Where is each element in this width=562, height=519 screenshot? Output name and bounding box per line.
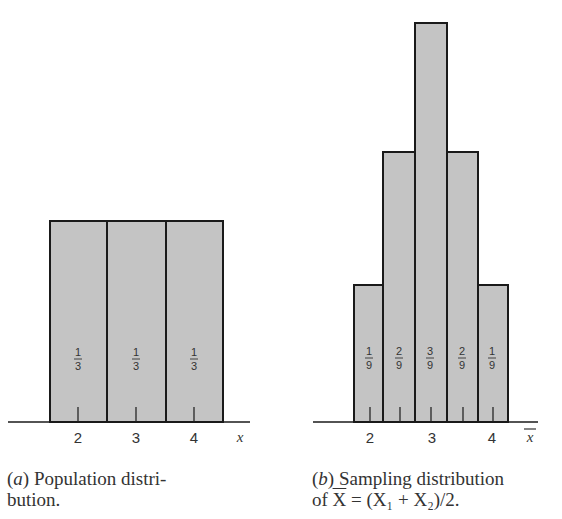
tick-label-b-2: 2 — [366, 429, 374, 446]
tick-label-b-3: 3 — [428, 429, 436, 446]
fraction-a-1: 1 3 — [74, 346, 82, 372]
frac-den: 9 — [366, 359, 372, 371]
frac-num: 3 — [427, 345, 433, 357]
fraction-b-1: 1 9 — [365, 345, 373, 371]
caption-b-prefix: of — [312, 489, 333, 510]
caption-a: (a) Population distri- bution. — [7, 468, 267, 510]
caption-b: (b) Sampling distribution of X = (X₁ + X… — [312, 468, 562, 510]
frac-num: 1 — [191, 346, 197, 358]
caption-b-formula: = (X₁ + X₂)/2. — [346, 489, 459, 510]
caption-b-xbar: X — [333, 489, 347, 510]
bar-b-3.5 — [447, 152, 478, 422]
frac-den: 3 — [133, 360, 139, 372]
fraction-b-5: 1 9 — [488, 345, 496, 371]
frac-num: 1 — [133, 346, 139, 358]
frac-den: 9 — [459, 359, 465, 371]
bar-a-4 — [166, 221, 223, 422]
frac-den: 9 — [396, 359, 402, 371]
caption-a-line1: Population distri- — [34, 468, 166, 489]
frac-den: 3 — [75, 360, 81, 372]
tick-label-a-2: 2 — [74, 429, 82, 446]
bar-b-2.5 — [383, 152, 415, 422]
caption-letter-b: b — [318, 468, 328, 489]
bar-a-3 — [107, 221, 166, 422]
fraction-a-3: 1 3 — [190, 346, 198, 372]
frac-den: 9 — [489, 359, 495, 371]
frac-den: 9 — [427, 359, 433, 371]
frac-num: 2 — [459, 345, 465, 357]
fraction-b-3: 3 9 — [426, 345, 434, 371]
tick-label-b-4: 4 — [488, 429, 496, 446]
frac-num: 2 — [396, 345, 402, 357]
tick-label-a-4: 4 — [190, 429, 198, 446]
fraction-a-2: 1 3 — [132, 346, 140, 372]
caption-a-line2: bution. — [7, 489, 60, 510]
figure: 1 3 1 3 1 3 2 3 4 x 1 — [0, 0, 562, 519]
bar-a-2 — [50, 221, 107, 422]
frac-num: 1 — [489, 345, 495, 357]
frac-num: 1 — [366, 345, 372, 357]
frac-den: 3 — [191, 360, 197, 372]
tick-label-a-3: 3 — [132, 429, 140, 446]
fraction-b-2: 2 9 — [395, 345, 403, 371]
fraction-b-4: 2 9 — [458, 345, 466, 371]
frac-num: 1 — [75, 346, 81, 358]
chart-a: 1 3 1 3 1 3 2 3 4 x — [8, 221, 250, 446]
x-axis-label-a: x — [236, 429, 244, 445]
caption-letter-a: a — [13, 468, 23, 489]
x-axis-label-b: x — [526, 429, 534, 445]
caption-b-line1: Sampling distribution — [339, 468, 504, 489]
chart-b: 1 9 2 9 3 9 2 9 1 9 2 3 4 x — [313, 23, 538, 446]
